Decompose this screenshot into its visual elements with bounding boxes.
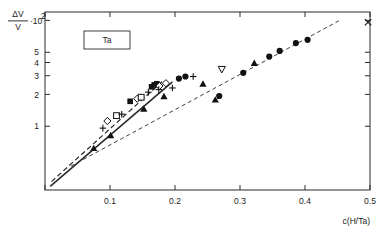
y-axis-label-exponent: 2: [41, 11, 46, 21]
x-tick-label: 0.2: [169, 196, 181, 206]
annotation-label: Ta: [103, 35, 112, 45]
marker-circle-filled: [216, 93, 222, 99]
marker-triangle-down-open: [218, 66, 225, 72]
x-axis-label: c(H/Ta): [343, 216, 371, 226]
plot-frame: [45, 12, 370, 190]
x-tick-label: 0.5: [364, 196, 376, 206]
series-filled-circle: [176, 37, 311, 99]
marker-circle-filled: [182, 73, 188, 79]
marker-square-open: [114, 113, 120, 119]
y-tick-label: 5: [34, 47, 39, 57]
series-filled-square: [127, 81, 159, 104]
marker-circle-filled: [293, 40, 299, 46]
marker-circle-filled: [277, 48, 283, 54]
scatter-plot-svg: 0.10.20.30.40.512345ΔVV·102c(H/Ta)Ta: [0, 0, 384, 234]
x-tick-label: 0.3: [234, 196, 246, 206]
marker-triangle-filled: [251, 59, 258, 65]
marker-square-open: [138, 94, 144, 100]
marker-circle-filled: [266, 53, 272, 59]
marker-triangle-filled: [199, 80, 206, 86]
marker-triangle-filled: [160, 93, 167, 99]
y-tick-label: 3: [34, 71, 39, 81]
marker-square-filled: [127, 99, 133, 105]
marker-circle-filled: [176, 75, 182, 81]
series-open-square: [114, 94, 145, 118]
x-tick-label: 0.1: [104, 196, 116, 206]
marker-circle-filled: [305, 37, 311, 43]
y-axis-label-numerator: ΔV: [12, 9, 24, 19]
y-tick-label: 1: [34, 121, 39, 131]
marker-circle-filled: [240, 70, 246, 76]
marker-diamond-open: [104, 117, 111, 124]
series-filled-triangle: [90, 59, 258, 151]
y-tick-label: 2: [34, 90, 39, 100]
fit-line: [52, 81, 164, 182]
chart-figure: 0.10.20.30.40.512345ΔVV·102c(H/Ta)Ta: [0, 0, 384, 234]
y-tick-label: 4: [34, 58, 39, 68]
y-axis-label: ΔVV·102: [8, 9, 46, 32]
y-axis-label-denominator: V: [15, 22, 21, 32]
series-open-inverted-triangle: [218, 66, 225, 72]
x-tick-label: 0.4: [299, 196, 311, 206]
